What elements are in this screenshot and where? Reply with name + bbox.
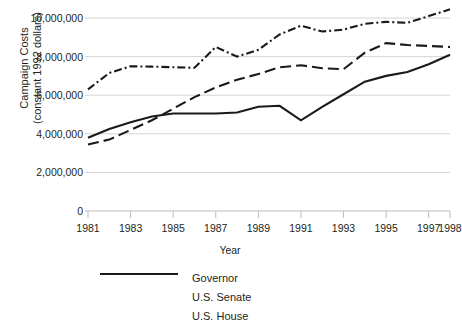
x-axis-tick-label: 1989 [247, 222, 270, 234]
x-axis-tick-label: 1981 [76, 222, 99, 234]
x-axis-tick-label: 1987 [204, 222, 227, 234]
legend-line-sample [100, 291, 178, 303]
series-line-u-s-senate [88, 43, 450, 144]
legend-item[interactable]: U.S. Senate [100, 287, 251, 306]
x-axis-tick-label: 1995 [374, 222, 397, 234]
series-line-governor [88, 9, 450, 89]
legend-item[interactable]: U.S. House [100, 306, 251, 325]
x-axis-tick-label: 1991 [289, 222, 312, 234]
x-axis-tick-label: 1998 [438, 222, 461, 234]
x-axis-tick-label: 1983 [119, 222, 142, 234]
legend-label: U.S. Senate [192, 291, 251, 303]
x-axis-title: Year [0, 244, 460, 256]
chart-plot-area [0, 0, 460, 230]
x-axis-tick-label: 1993 [332, 222, 355, 234]
legend-line-sample [100, 310, 178, 322]
x-axis-tick-label: 1985 [161, 222, 184, 234]
chart-legend: GovernorU.S. SenateU.S. House [100, 268, 251, 325]
legend-label: U.S. House [192, 310, 248, 322]
legend-label: Governor [192, 272, 238, 284]
x-axis-tick-label: 1997 [417, 222, 440, 234]
